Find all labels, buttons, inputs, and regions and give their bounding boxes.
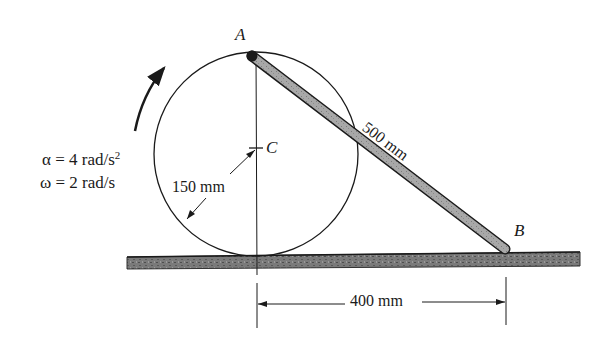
alpha-value: = 4 rad/s <box>51 150 115 169</box>
omega-symbol: ω <box>40 173 51 192</box>
ground <box>127 252 580 269</box>
point-a-label: A <box>235 26 245 43</box>
alpha-symbol: α <box>42 150 51 169</box>
radius-label: 150 mm <box>172 179 225 195</box>
pin-a <box>247 51 258 62</box>
omega-label: ω = 2 rad/s <box>40 174 115 191</box>
point-b-label: B <box>514 222 524 239</box>
alpha-exponent: 2 <box>115 149 121 161</box>
omega-value: = 2 rad/s <box>51 173 115 192</box>
horizontal-dimension-label: 400 mm <box>350 293 403 309</box>
point-c-label: C <box>266 139 277 156</box>
alpha-label: α = 4 rad/s2 <box>42 150 120 168</box>
rod-ab <box>247 51 506 250</box>
vertical-centerline <box>256 55 257 275</box>
